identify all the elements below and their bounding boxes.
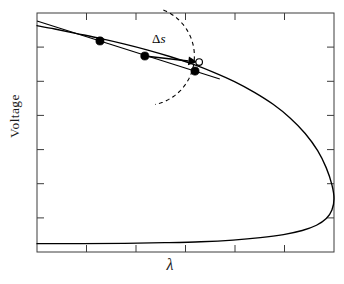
plot-canvas	[0, 0, 344, 284]
x-axis-label: λ	[150, 256, 190, 274]
x-axis-ticks-bottom	[87, 245, 285, 252]
y-axis-ticks-left	[37, 47, 44, 218]
bifurcation-figure: Voltage λ Δs	[0, 0, 344, 284]
solution-point-1	[96, 37, 104, 45]
x-axis-ticks-top	[87, 13, 285, 20]
arclength-variable: s	[160, 31, 165, 46]
axes-frame	[37, 13, 334, 252]
solution-point-2	[141, 52, 149, 60]
solution-point-3	[191, 67, 199, 75]
predicted-point	[196, 59, 203, 66]
step-size-label: Δs	[152, 31, 165, 47]
solution-markers	[96, 37, 203, 75]
solution-branch-curve	[37, 26, 334, 244]
